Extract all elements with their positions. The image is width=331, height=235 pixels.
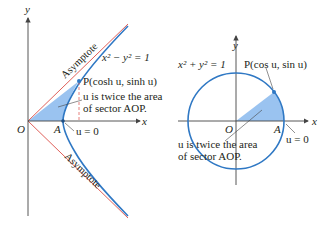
hyperbolic-sector-fill (28, 81, 79, 121)
point-a-label: A (273, 123, 281, 135)
y-axis-label: y (24, 3, 30, 15)
sector-note-line1: u is twice the area (83, 90, 163, 102)
point-p-label: P(cosh u, sinh u) (83, 75, 157, 88)
circle-equation: x² + y² = 1 (177, 58, 226, 70)
u-zero-label: u = 0 (76, 125, 99, 137)
point-p-label: P(cos u, sin u) (244, 58, 307, 71)
x-axis-label: x (311, 115, 317, 127)
x-axis-label: x (141, 115, 147, 127)
point-a-marker (61, 119, 65, 123)
sector-note-line2: of sector AOP. (178, 150, 242, 162)
y-axis-label: y (232, 39, 238, 51)
u-zero-leader-line (65, 123, 74, 131)
point-a-label: A (53, 123, 61, 135)
hyperbola-equation: x² − y² = 1 (101, 51, 150, 63)
lower-asymptote-label: Asymptote (63, 151, 104, 191)
hyperbola-panel: y x x² − y² = 1 Asymptote Asymptote P(co… (17, 3, 163, 218)
sector-note-line1: u is twice the area (178, 138, 258, 150)
sector-note-line2: of sector AOP. (83, 102, 147, 114)
point-p-marker (272, 90, 276, 94)
origin-label: O (17, 123, 25, 135)
unit-circle-panel: y x x² + y² = 1 P(cos u, sin u) O A u = … (177, 36, 317, 185)
point-p-marker (77, 79, 81, 83)
origin-label: O (225, 123, 233, 135)
u-zero-leader-line (286, 124, 295, 133)
u-zero-label: u = 0 (286, 133, 309, 145)
diagram-canvas: y x x² − y² = 1 Asymptote Asymptote P(co… (0, 0, 331, 235)
